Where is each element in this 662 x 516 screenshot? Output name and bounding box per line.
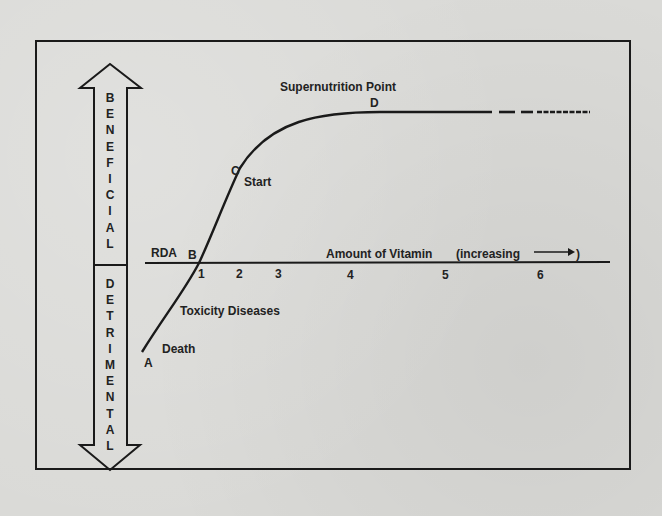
tick-5: 5	[442, 268, 449, 282]
letter: E	[106, 292, 114, 308]
rda-label: RDA	[151, 246, 177, 260]
letter: E	[106, 139, 114, 155]
letter: I	[108, 341, 111, 357]
point-b-letter: B	[188, 248, 197, 262]
letter: T	[106, 308, 113, 324]
letter: I	[108, 171, 111, 187]
letter: A	[106, 422, 115, 438]
detrimental-label: D E T R I M E N T A L	[104, 276, 116, 454]
x-axis-line	[145, 262, 610, 263]
point-d-letter: D	[370, 96, 379, 110]
death-label: Death	[162, 342, 195, 356]
letter: N	[106, 122, 115, 138]
tick-6: 6	[537, 268, 544, 282]
letter: L	[106, 438, 113, 454]
letter: B	[106, 90, 115, 106]
letter: C	[106, 187, 115, 203]
point-a-letter: A	[144, 356, 153, 370]
letter: E	[106, 106, 114, 122]
letter: F	[106, 155, 113, 171]
start-label: Start	[244, 175, 271, 189]
supernutrition-point-label: Supernutrition Point	[280, 80, 396, 94]
toxicity-diseases-label: Toxicity Diseases	[180, 304, 280, 318]
beneficial-label: B E N E F I C I A L	[104, 90, 116, 252]
letter: M	[105, 357, 115, 373]
letter: I	[108, 203, 111, 219]
x-axis-label: Amount of Vitamin	[326, 247, 432, 261]
letter: E	[106, 373, 114, 389]
tick-4: 4	[347, 268, 354, 282]
tick-3: 3	[275, 267, 282, 281]
tick-1: 1	[198, 267, 205, 281]
increasing-arrow-icon	[534, 248, 575, 256]
x-axis-label-close: )	[576, 247, 580, 261]
letter: T	[106, 406, 113, 422]
letter: R	[106, 325, 115, 341]
point-c-letter: C	[231, 164, 240, 178]
letter: N	[106, 389, 115, 405]
tick-2: 2	[236, 267, 243, 281]
letter: D	[106, 276, 115, 292]
vitamin-curve-diagram: Supernutrition Point D C Start RDA B Amo…	[0, 0, 662, 516]
letter: A	[106, 220, 115, 236]
x-axis-ticks: 1 2 3 4 5 6	[198, 267, 544, 282]
x-axis-label-suffix: (increasing	[456, 247, 520, 261]
letter: L	[106, 236, 113, 252]
